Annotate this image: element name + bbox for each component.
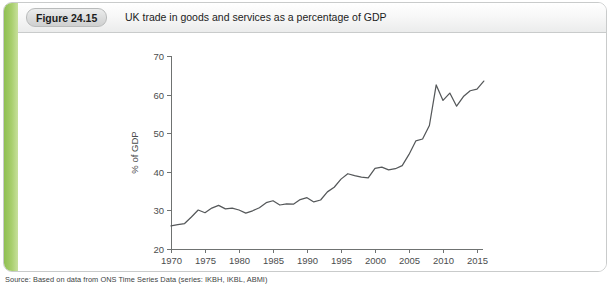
svg-text:20: 20	[153, 244, 164, 255]
figure-number-badge: Figure 24.15	[26, 8, 107, 27]
svg-text:50: 50	[153, 128, 164, 139]
svg-text:1985: 1985	[263, 255, 284, 266]
svg-text:1980: 1980	[229, 255, 250, 266]
figure-root: Figure 24.15 UK trade in goods and servi…	[0, 0, 613, 285]
svg-text:2000: 2000	[365, 255, 386, 266]
svg-text:2005: 2005	[399, 255, 420, 266]
svg-text:2010: 2010	[433, 255, 454, 266]
svg-text:1995: 1995	[331, 255, 352, 266]
figure-title: UK trade in goods and services as a perc…	[125, 8, 386, 27]
svg-text:70: 70	[153, 51, 164, 62]
svg-text:60: 60	[153, 90, 164, 101]
figure-header: Figure 24.15 UK trade in goods and servi…	[18, 3, 606, 33]
svg-text:% of GDP: % of GDP	[129, 131, 140, 173]
source-caption: Source: Based on data from ONS Time Seri…	[5, 275, 267, 284]
svg-text:2015: 2015	[467, 255, 488, 266]
svg-text:1970: 1970	[161, 255, 182, 266]
line-chart: 2030405060701970197519801985199019952000…	[18, 33, 607, 272]
svg-text:40: 40	[153, 167, 164, 178]
accent-stripe	[4, 3, 18, 271]
plot-area: 2030405060701970197519801985199019952000…	[18, 33, 606, 271]
trade-share-line	[171, 81, 484, 226]
svg-text:30: 30	[153, 205, 164, 216]
svg-text:1975: 1975	[195, 255, 216, 266]
figure-card: Figure 24.15 UK trade in goods and servi…	[3, 2, 607, 272]
svg-text:1990: 1990	[297, 255, 318, 266]
